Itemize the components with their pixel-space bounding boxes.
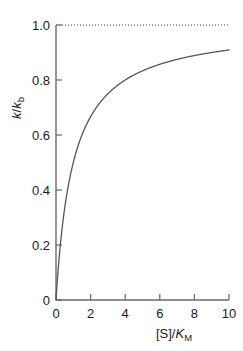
x-axis-title-pre: [S]/ [156, 326, 176, 341]
x-tick-label-4: 4 [122, 306, 129, 321]
x-tick-label-6: 6 [156, 306, 163, 321]
y-tick-label-0-4: 0.4 [32, 183, 50, 198]
x-tick-label-8: 8 [191, 306, 198, 321]
y-tick-label-1-0: 1.0 [32, 18, 50, 33]
x-axis-title-subscript: M [184, 332, 192, 343]
y-tick-label-0: 0 [43, 293, 50, 308]
y-axis-title-subscript: b [15, 97, 26, 102]
x-tick-label-2: 2 [87, 306, 94, 321]
plot-svg: 0 0.2 0.4 0.6 0.8 1.0 0 2 4 6 8 10 [S]/K… [0, 0, 243, 351]
x-tick-label-0: 0 [52, 306, 59, 321]
x-tick-label-10: 10 [222, 306, 236, 321]
y-tick-label-0-8: 0.8 [32, 73, 50, 88]
chart-background [0, 0, 243, 351]
chart-figure: 0 0.2 0.4 0.6 0.8 1.0 0 2 4 6 8 10 [S]/K… [0, 0, 243, 351]
y-tick-label-0-6: 0.6 [32, 128, 50, 143]
y-tick-label-0-2: 0.2 [32, 238, 50, 253]
